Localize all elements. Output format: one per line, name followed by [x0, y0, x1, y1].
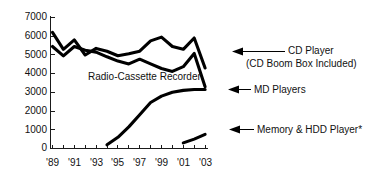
chart-container: 7000 6000 5000 4000 3000 2000 1000 0 '89…: [0, 0, 389, 178]
series-line-md-players: [107, 90, 205, 145]
x-tick-label-03: '03: [190, 158, 221, 168]
y-tick-label-2000: 2000: [7, 106, 47, 116]
series-label-md-players: MD Players: [254, 84, 306, 96]
y-tick-label-0: 0: [7, 143, 47, 153]
y-tick-label-4000: 4000: [7, 68, 47, 78]
annotation-leader-memory-hdd-player: [229, 126, 254, 134]
y-tick-label-6000: 6000: [7, 31, 47, 41]
series-label-memory-hdd-player: Memory & HDD Player*: [257, 124, 362, 136]
chart-plot-area: [0, 0, 389, 178]
series-label-cd-player: CD Player: [288, 45, 334, 57]
series-label-radio-cassette-recorder: Radio-Cassette Recorder: [88, 71, 201, 82]
y-tick-label-1000: 1000: [7, 125, 47, 135]
annotation-leader-md-players: [228, 86, 251, 94]
x-tick-marks: [53, 145, 206, 149]
y-tick-label-7000: 7000: [7, 12, 47, 22]
series-label-cd-player-sub: (CD Boom Box Included): [246, 58, 357, 70]
series-line-memory-hdd-player: [183, 134, 205, 143]
y-tick-label-3000: 3000: [7, 87, 47, 97]
y-tick-label-5000: 5000: [7, 50, 47, 60]
annotation-leader-cd-player: [232, 48, 285, 56]
